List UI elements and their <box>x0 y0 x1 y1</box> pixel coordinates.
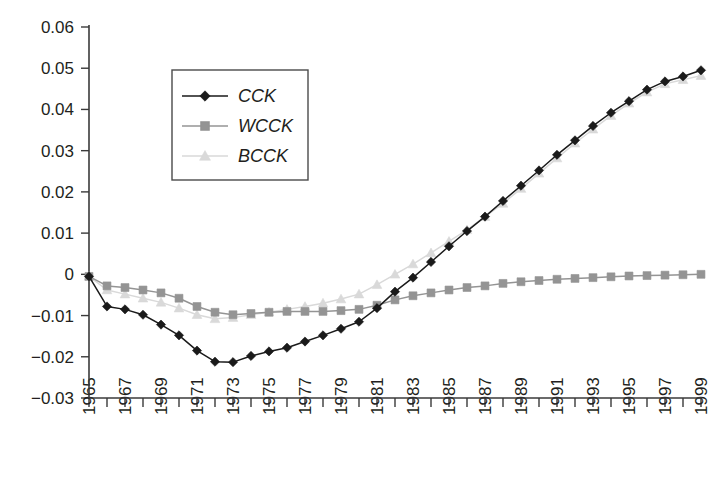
data-point-bcck <box>408 259 418 268</box>
data-point-wcck <box>661 271 669 279</box>
legend-label-cck: CCK <box>238 86 277 106</box>
data-point-bcck <box>426 248 436 257</box>
data-point-wcck <box>337 307 345 315</box>
data-point-wcck <box>463 284 471 292</box>
data-point-wcck <box>157 289 165 297</box>
y-tick-label: −0.02 <box>31 348 74 367</box>
y-tick-label: −0.01 <box>31 307 74 326</box>
data-point-wcck <box>535 277 543 285</box>
y-tick-label: 0.06 <box>41 18 74 37</box>
data-point-bcck <box>354 289 364 298</box>
data-point-wcck <box>121 284 129 292</box>
data-point-wcck <box>481 282 489 290</box>
data-point-wcck <box>211 308 219 316</box>
legend-label-bcck: BCCK <box>238 146 289 166</box>
data-point-wcck <box>265 308 273 316</box>
data-point-cck <box>300 337 309 346</box>
data-point-cck <box>210 357 219 366</box>
data-point-cck <box>228 358 237 367</box>
data-point-wcck <box>409 292 417 300</box>
x-axis-ticks: 1965196719691971197319751977197919811983… <box>80 377 711 415</box>
x-tick-label: 1997 <box>656 377 675 415</box>
data-point-wcck <box>229 311 237 319</box>
x-tick-label: 1975 <box>260 377 279 415</box>
data-point-wcck <box>589 274 597 282</box>
legend-label-wcck: WCCK <box>238 116 294 136</box>
data-point-wcck <box>499 279 507 287</box>
data-point-wcck <box>301 307 309 315</box>
x-tick-label: 1981 <box>368 377 387 415</box>
x-tick-label: 1967 <box>116 377 135 415</box>
data-point-wcck <box>427 289 435 297</box>
data-point-wcck <box>445 286 453 294</box>
y-tick-label: 0.04 <box>41 100 74 119</box>
x-tick-label: 1995 <box>620 377 639 415</box>
line-chart: 0.060.050.040.030.020.010−0.01−0.02−0.03… <box>0 0 724 488</box>
x-tick-label: 1983 <box>404 377 423 415</box>
y-tick-label: 0 <box>65 265 74 284</box>
x-tick-label: 1969 <box>152 377 171 415</box>
data-point-wcck <box>193 303 201 311</box>
data-point-wcck <box>679 271 687 279</box>
x-tick-label: 1973 <box>224 377 243 415</box>
data-point-bcck <box>390 270 400 279</box>
data-point-cck <box>696 66 705 75</box>
data-point-cck <box>246 351 255 360</box>
data-point-cck <box>336 324 345 333</box>
data-point-cck <box>282 343 291 352</box>
data-point-wcck <box>355 305 363 313</box>
y-tick-label: 0.01 <box>41 224 74 243</box>
x-tick-label: 1989 <box>512 377 531 415</box>
data-point-bcck <box>372 280 382 289</box>
x-tick-label: 1987 <box>476 377 495 415</box>
y-tick-label: −0.03 <box>31 389 74 408</box>
chart-figure: 0.060.050.040.030.020.010−0.01−0.02−0.03… <box>0 0 724 488</box>
data-point-wcck <box>517 278 525 286</box>
y-tick-label: 0.05 <box>41 59 74 78</box>
y-tick-label: 0.03 <box>41 142 74 161</box>
data-point-wcck <box>247 310 255 318</box>
data-point-wcck <box>139 286 147 294</box>
data-point-wcck <box>697 270 705 278</box>
data-point-wcck <box>391 296 399 304</box>
data-point-wcck <box>553 275 561 283</box>
y-axis-ticks: 0.060.050.040.030.020.010−0.01−0.02−0.03 <box>31 18 89 408</box>
data-point-wcck <box>607 273 615 281</box>
data-point-wcck <box>103 282 111 290</box>
data-point-cck <box>138 310 147 319</box>
data-point-wcck <box>283 307 291 315</box>
chart-legend: CCKWCCKBCCK <box>172 70 308 180</box>
x-tick-label: 1979 <box>332 377 351 415</box>
data-point-wcck <box>319 307 327 315</box>
data-point-cck <box>156 320 165 329</box>
x-tick-label: 1985 <box>440 377 459 415</box>
x-tick-label: 1999 <box>692 377 711 415</box>
x-tick-label: 1971 <box>188 377 207 415</box>
data-point-cck <box>102 302 111 311</box>
data-point-wcck <box>175 294 183 302</box>
x-tick-label: 1993 <box>584 377 603 415</box>
data-point-cck <box>120 305 129 314</box>
data-point-cck <box>264 347 273 356</box>
data-point-cck <box>318 331 327 340</box>
data-point-wcck <box>625 272 633 280</box>
data-point-wcck <box>571 274 579 282</box>
y-tick-label: 0.02 <box>41 183 74 202</box>
data-point-wcck <box>643 272 651 280</box>
x-tick-label: 1991 <box>548 377 567 415</box>
legend-marker-square-icon <box>201 122 210 131</box>
x-tick-label: 1977 <box>296 377 315 415</box>
